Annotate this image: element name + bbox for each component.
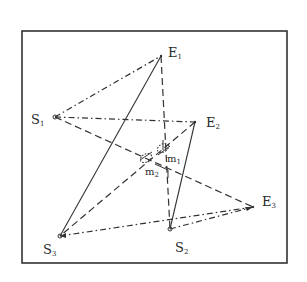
point-markers: [53, 55, 254, 238]
e2-marker: [194, 121, 196, 123]
line-e1-s2: [161, 56, 170, 229]
label-m1: m1: [167, 153, 181, 166]
line-e1-s3: [60, 56, 161, 236]
label-m2: m2: [145, 166, 159, 179]
point-labels: E1E2E3S1S2S3m1m2: [31, 45, 276, 258]
ray-lines: [55, 56, 253, 236]
line-s1-e3: [55, 117, 253, 207]
e1-marker: [160, 55, 162, 57]
diagram-frame: [22, 31, 287, 263]
stereo-geometry-diagram: E1E2E3S1S2S3m1m2: [0, 0, 307, 282]
line-s1-e1: [55, 56, 161, 117]
line-e2-s2: [170, 122, 195, 229]
label-e3: E3: [262, 194, 276, 210]
label-s2: S2: [175, 240, 188, 256]
line-e2-s3: [60, 122, 195, 236]
label-s3: S3: [43, 242, 56, 258]
label-e1: E1: [168, 45, 182, 61]
label-s1: S1: [31, 112, 44, 128]
arrow-head-e3: [245, 207, 253, 211]
label-e2: E2: [206, 115, 220, 131]
